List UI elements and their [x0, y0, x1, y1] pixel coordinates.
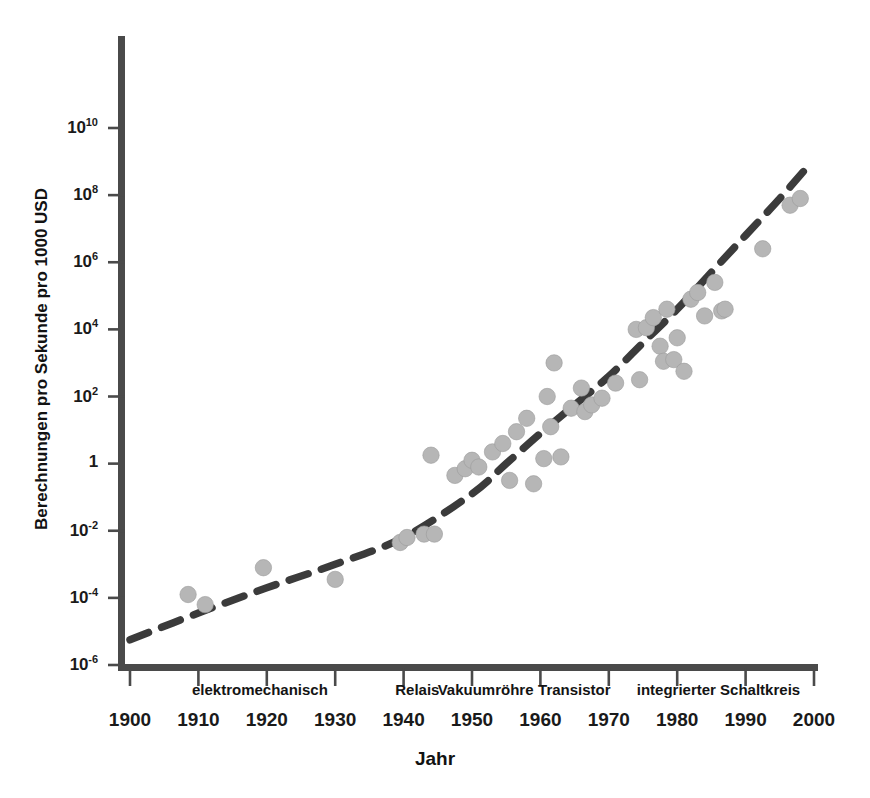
era-label: elektromechanisch — [192, 681, 328, 698]
moores-law-chart: Berechnungen pro Sekunde pro 1000 USD Ja… — [0, 0, 870, 798]
era-label: Transistor — [538, 681, 611, 698]
era-label: Vakuumröhre — [438, 681, 534, 698]
era-labels: elektromechanischRelaisVakuumröhreTransi… — [0, 0, 870, 798]
era-label: Relais — [395, 681, 439, 698]
era-label: integrierter Schaltkreis — [637, 681, 800, 698]
